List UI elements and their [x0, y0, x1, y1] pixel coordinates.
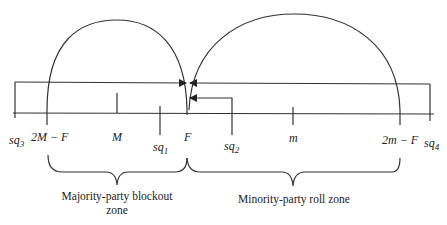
arrow-sq4-to-F [190, 83, 430, 84]
label-F: F [183, 130, 192, 144]
minority-arc [189, 14, 400, 125]
label-2m-F: 2m − F [382, 133, 419, 147]
policy-axis [13, 113, 434, 114]
brace-majority-blockout [48, 155, 187, 185]
arrow-sq2-to-F [190, 98, 232, 135]
label-sq4: sq4 [424, 136, 440, 152]
label-sq1: sq1 [153, 140, 168, 156]
arrow-sq3-to-F [15, 82, 186, 83]
label-sq2: sq2 [224, 139, 240, 155]
zone-label-minority: Minority-party roll zone [238, 193, 350, 206]
label-M: M [111, 130, 123, 144]
label-sq3: sq3 [9, 133, 25, 149]
brace-minority-roll [187, 158, 400, 186]
zone-label-majority-line2: zone [106, 204, 128, 216]
voting-diagram: sq3 2M − F M sq1 F sq2 m 2m − F sq4 Majo… [0, 0, 447, 225]
zone-label-majority-line1: Majority-party blockout [62, 190, 174, 203]
label-m: m [289, 131, 298, 145]
label-2M-F: 2M − F [31, 130, 69, 144]
